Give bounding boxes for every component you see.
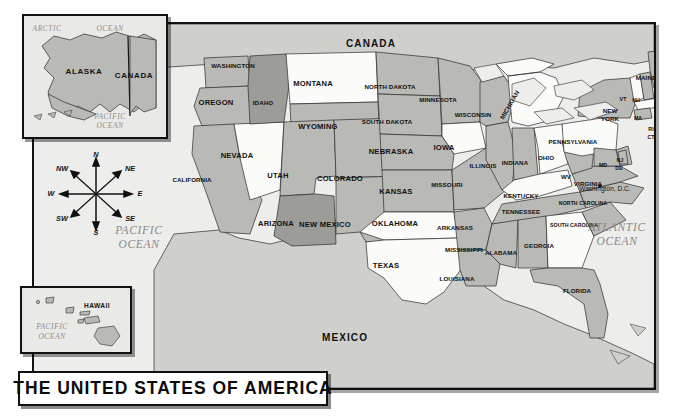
capital-marker-icon [599,185,602,188]
state-idaho [248,54,290,124]
state-indiana [512,128,538,180]
hawaii-island-niihau [46,297,54,303]
hawaii-island-lanai [78,319,84,323]
map-title-text: THE UNITED STATES OF AMERICA [13,378,332,399]
hawaii-inset-frame [20,286,132,354]
state-alabama [518,216,548,268]
alaska-geometry [24,16,166,137]
state-connecticut [634,108,652,120]
us-map-figure: WASHINGTONOREGONIDAHOMONTANANORTH DAKOTA… [0,0,688,418]
hawaii-island-kauai [36,300,39,303]
state-maryland [594,148,620,166]
hawaii-geometry [22,288,130,352]
alaska-inset-frame [22,14,168,139]
state-south-dakota [378,94,442,136]
compass-rose: NNEESESSWWNW [44,152,148,236]
state-delaware [618,150,628,164]
hawaii-island-oahu [66,307,74,313]
state-utah [280,120,336,196]
map-title-plate: THE UNITED STATES OF AMERICA [18,371,328,406]
compass-geometry [44,152,148,236]
state-north-dakota [376,52,440,96]
state-washington [204,56,250,88]
state-montana [286,52,378,104]
canada-strip [130,36,156,114]
hawaii-island-molokai [80,311,90,315]
state-nebraska [380,134,454,170]
state-oregon [194,86,252,126]
state-arizona [274,194,336,246]
state-arkansas [454,208,492,250]
state-kansas [382,170,454,212]
